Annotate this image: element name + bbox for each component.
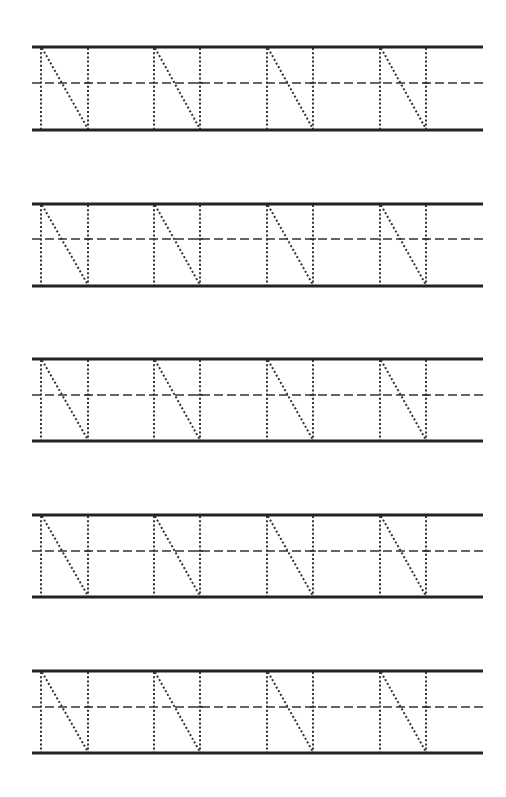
letter-diagonal-stroke xyxy=(155,205,200,285)
traceable-letter-n xyxy=(267,360,313,440)
letter-diagonal-stroke xyxy=(268,360,313,440)
letter-diagonal-stroke xyxy=(155,48,200,129)
letter-diagonal-stroke xyxy=(268,205,313,285)
traceable-letter-n xyxy=(41,672,88,752)
handwriting-worksheet xyxy=(0,0,506,797)
tracing-sheet xyxy=(0,0,506,797)
letter-diagonal-stroke xyxy=(268,672,313,752)
letter-diagonal-stroke xyxy=(268,516,313,596)
practice-row xyxy=(32,359,483,441)
traceable-letter-n xyxy=(267,205,313,285)
traceable-letter-n xyxy=(380,672,426,752)
letter-diagonal-stroke xyxy=(381,360,426,440)
traceable-letter-n xyxy=(380,516,426,596)
practice-row xyxy=(32,47,483,130)
letter-diagonal-stroke xyxy=(381,516,426,596)
traceable-letter-n xyxy=(154,672,200,752)
letter-diagonal-stroke xyxy=(381,205,426,285)
letter-diagonal-stroke xyxy=(155,672,200,752)
traceable-letter-n xyxy=(380,205,426,285)
letter-diagonal-stroke xyxy=(42,205,88,285)
letter-diagonal-stroke xyxy=(268,48,313,129)
letter-diagonal-stroke xyxy=(42,672,88,752)
traceable-letter-n xyxy=(380,360,426,440)
traceable-letter-n xyxy=(267,516,313,596)
letter-diagonal-stroke xyxy=(42,516,88,596)
traceable-letter-n xyxy=(154,205,200,285)
traceable-letter-n xyxy=(154,360,200,440)
practice-row xyxy=(32,204,483,286)
letter-diagonal-stroke xyxy=(381,672,426,752)
traceable-letter-n xyxy=(154,48,200,129)
letter-diagonal-stroke xyxy=(42,360,88,440)
traceable-letter-n xyxy=(41,48,88,129)
traceable-letter-n xyxy=(41,205,88,285)
practice-row xyxy=(32,671,483,753)
letter-diagonal-stroke xyxy=(155,360,200,440)
traceable-letter-n xyxy=(41,516,88,596)
practice-row xyxy=(32,515,483,597)
letter-diagonal-stroke xyxy=(381,48,426,129)
traceable-letter-n xyxy=(154,516,200,596)
letter-diagonal-stroke xyxy=(155,516,200,596)
traceable-letter-n xyxy=(41,360,88,440)
traceable-letter-n xyxy=(267,672,313,752)
traceable-letter-n xyxy=(380,48,426,129)
traceable-letter-n xyxy=(267,48,313,129)
letter-diagonal-stroke xyxy=(42,48,88,129)
